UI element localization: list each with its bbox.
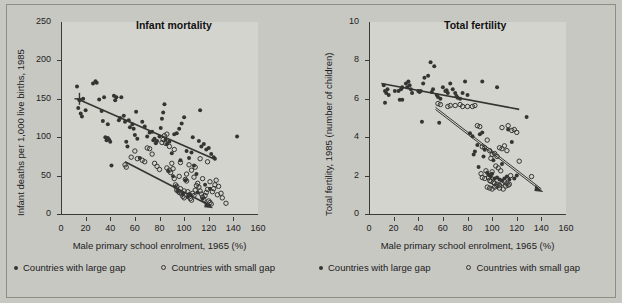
data-point-small-gap <box>453 103 457 107</box>
x-axis-tick-label: 40 <box>101 223 119 233</box>
data-point-small-gap <box>500 125 504 129</box>
data-point-large-gap <box>197 139 201 143</box>
x-axis-tick-label: 160 <box>249 223 267 233</box>
x-axis-tick <box>110 217 111 221</box>
data-point-large-gap <box>480 130 484 134</box>
data-point-small-gap <box>177 174 181 178</box>
legend-total-fertility: Countries with large gap Countries with … <box>319 262 580 273</box>
y-axis-tick-label: 0 <box>333 208 359 218</box>
x-axis-tick <box>443 217 444 221</box>
data-point-large-gap <box>190 151 194 155</box>
data-point-large-gap <box>458 97 462 101</box>
data-point-large-gap <box>132 127 136 131</box>
data-point-large-gap <box>438 97 442 101</box>
data-point-large-gap <box>135 137 139 141</box>
data-point-large-gap <box>81 97 85 101</box>
data-point-large-gap <box>77 98 81 102</box>
x-axis-tick-label: 0 <box>52 223 70 233</box>
data-point-small-gap <box>515 130 519 134</box>
y-axis-tick <box>57 137 61 138</box>
legend-label-large-gap: Countries with large gap <box>328 262 430 273</box>
x-axis-tick-label: 140 <box>532 223 550 233</box>
data-point-large-gap <box>406 80 410 84</box>
data-point-large-gap <box>207 146 211 150</box>
data-point-large-gap <box>161 111 165 115</box>
y-axis-tick-label: 6 <box>333 93 359 103</box>
data-point-large-gap <box>102 95 106 99</box>
data-point-large-gap <box>393 89 397 93</box>
data-point-large-gap <box>387 93 391 97</box>
data-point-small-gap <box>208 180 212 184</box>
data-point-large-gap <box>123 120 127 124</box>
data-point-large-gap <box>150 130 154 134</box>
x-axis-tick <box>233 217 234 221</box>
y-axis-tick-label: 2 <box>333 170 359 180</box>
y-axis-tick <box>57 214 61 215</box>
data-point-large-gap <box>202 142 206 146</box>
x-axis-tick <box>418 217 419 221</box>
data-point-small-gap <box>205 160 209 164</box>
x-axis-tick-label: 120 <box>200 223 218 233</box>
y-axis-tick-label: 10 <box>333 16 359 26</box>
data-point-large-gap <box>426 74 430 78</box>
x-axis-title-total-fertility: Male primary school enrolment, 1965 (%) <box>363 240 572 251</box>
data-point-large-gap <box>75 85 79 89</box>
data-point-large-gap <box>419 89 423 93</box>
data-point-large-gap <box>475 143 479 147</box>
legend-infant-mortality: Countries with large gap Countries with … <box>14 262 275 273</box>
data-point-large-gap <box>125 144 129 148</box>
x-axis-tick <box>160 217 161 221</box>
x-axis-tick <box>541 217 542 221</box>
y-axis-tick <box>365 99 369 100</box>
x-axis-tick-label: 80 <box>459 223 477 233</box>
data-point-large-gap <box>191 135 195 139</box>
y-axis-tick-label: 8 <box>333 54 359 64</box>
y-axis-tick <box>365 60 369 61</box>
y-axis-tick-label: 250 <box>25 16 51 26</box>
data-point-large-gap <box>441 85 445 89</box>
data-point-large-gap <box>143 124 147 128</box>
data-point-large-gap <box>451 87 455 91</box>
data-point-large-gap <box>495 85 499 89</box>
figure-root: Infant mortality Male primary school enr… <box>0 0 622 303</box>
data-point-small-gap <box>465 104 469 108</box>
x-axis-tick-label: 60 <box>126 223 144 233</box>
data-point-large-gap <box>510 140 514 144</box>
legend-filled-circle-icon <box>319 266 323 270</box>
y-axis-tick <box>365 214 369 215</box>
x-axis-tick-label: 20 <box>77 223 95 233</box>
data-point-large-gap <box>422 76 426 80</box>
data-point-large-gap <box>235 134 239 138</box>
data-point-large-gap <box>477 165 481 169</box>
data-point-large-gap <box>408 83 412 87</box>
x-axis-tick-label: 0 <box>360 223 378 233</box>
data-point-small-gap <box>529 174 533 178</box>
data-point-large-gap <box>463 80 467 84</box>
data-point-large-gap <box>155 139 159 143</box>
x-axis-tick <box>468 217 469 221</box>
data-point-small-gap <box>502 144 506 148</box>
y-axis-tick-label: 150 <box>25 93 51 103</box>
scatter-layer-infant-mortality <box>0 0 311 303</box>
data-point-small-gap <box>214 178 218 182</box>
data-point-large-gap <box>177 127 181 131</box>
data-point-large-gap <box>175 131 179 135</box>
data-point-large-gap <box>448 81 452 85</box>
data-point-large-gap <box>114 95 118 99</box>
x-axis-tick-label: 100 <box>483 223 501 233</box>
data-point-large-gap <box>480 80 484 84</box>
small-gap-trend-end-arrow <box>534 185 543 192</box>
data-point-large-gap <box>160 117 164 121</box>
data-point-large-gap <box>383 101 387 105</box>
y-axis-tick <box>365 137 369 138</box>
x-axis-tick-label: 80 <box>151 223 169 233</box>
data-point-large-gap <box>124 140 128 144</box>
data-point-large-gap <box>437 121 441 125</box>
y-axis-tick-label: 0 <box>25 208 51 218</box>
y-axis-tick-label: 4 <box>333 131 359 141</box>
data-point-small-gap <box>220 196 224 200</box>
data-point-large-gap <box>409 87 413 91</box>
y-axis-tick-label: 200 <box>25 54 51 64</box>
data-point-small-gap <box>505 148 509 152</box>
legend-label-small-gap: Countries with small gap <box>171 262 275 273</box>
